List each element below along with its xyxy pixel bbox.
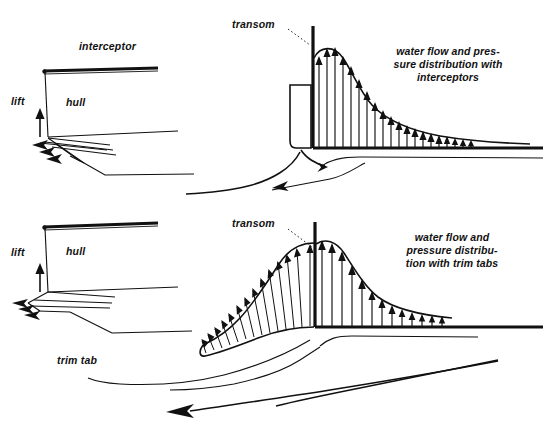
flow-boundary-top xyxy=(322,157,543,166)
flow-arrowheads-bottom xyxy=(12,299,40,320)
svg-text:tion with trim tabs: tion with trim tabs xyxy=(406,257,498,269)
transom-leader-top xyxy=(288,29,310,45)
lift-arrow-top xyxy=(35,108,44,137)
interceptor-blade xyxy=(42,68,158,74)
hull-bottom-bottom xyxy=(48,287,178,292)
lift-arrow-bottom xyxy=(35,263,44,292)
label-trim-tab: trim tab xyxy=(57,354,97,366)
wake-line-top xyxy=(84,163,194,175)
hull-transom-face-top xyxy=(45,72,48,137)
panel-trim-tab: hull lift xyxy=(11,217,543,418)
interceptor-body-top xyxy=(290,85,311,148)
trim-tab-pressure-group xyxy=(200,243,314,356)
label-transom-bottom: transom xyxy=(232,217,275,229)
svg-text:water flow and: water flow and xyxy=(415,231,490,243)
trim-tab-blade xyxy=(42,223,158,230)
label-hull-bottom: hull xyxy=(66,245,86,257)
svg-text:pressure distribu-: pressure distribu- xyxy=(405,244,497,256)
panel-interceptor: interceptor hull lift xyxy=(11,18,543,194)
label-lift-top: lift xyxy=(11,95,25,107)
recirculation-arrow-top xyxy=(301,150,328,172)
svg-text:sure distribution with: sure distribution with xyxy=(394,58,503,70)
wake-inner-line-top xyxy=(272,163,365,190)
flow-boundary-bottom xyxy=(320,336,478,346)
label-hull-top: hull xyxy=(66,96,86,108)
flow-lines-bottom xyxy=(28,292,192,333)
svg-text:interceptors: interceptors xyxy=(417,71,479,83)
label-transom-top: transom xyxy=(232,18,275,30)
diagram-root: interceptor hull lift xyxy=(0,0,543,434)
wake-flow-arrow-bottom xyxy=(88,340,498,418)
hull-bottom-top xyxy=(48,131,178,137)
technical-diagram: interceptor hull lift xyxy=(0,0,543,434)
hull-transom-face-bottom xyxy=(45,228,48,292)
label-lift-bottom: lift xyxy=(11,246,25,258)
transom-leader-bottom xyxy=(288,229,312,247)
caption-trim-tabs: water flow and pressure distribu- tion w… xyxy=(405,231,498,269)
svg-text:water flow and pres-: water flow and pres- xyxy=(396,45,500,57)
label-interceptor: interceptor xyxy=(79,40,137,52)
caption-interceptors: water flow and pres- sure distribution w… xyxy=(394,45,503,83)
